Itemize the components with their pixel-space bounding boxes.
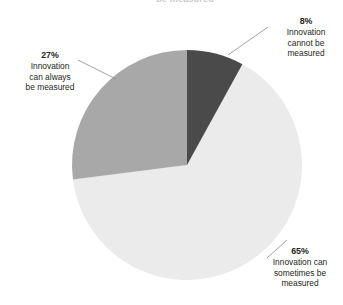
pie-label-sometimes: 65% Innovation can sometimes be measured [258, 246, 342, 289]
pie-label-cannot-percent: 8% [270, 16, 342, 27]
pie-label-cannot-line1: Innovation [270, 27, 342, 38]
pie-label-cannot: 8% Innovation cannot be measured [270, 16, 342, 59]
pie-label-always-line3: be measured [2, 82, 98, 93]
pie-label-always-percent: 27% [2, 50, 98, 61]
pie-label-cannot-line3: measured [270, 48, 342, 59]
pie-label-sometimes-line1: Innovation can [258, 257, 342, 268]
pie-chart-figure: be measured 8% Innovation cannot be meas… [0, 0, 343, 305]
pie-label-always: 27% Innovation can always be measured [2, 50, 98, 93]
pie-label-always-line1: Innovation [2, 61, 98, 72]
pie-label-cannot-line2: cannot be [270, 38, 342, 49]
pie-label-always-line2: can always [2, 72, 98, 83]
pie-label-sometimes-percent: 65% [258, 246, 342, 257]
leader-line-cannot [228, 27, 268, 55]
pie-label-sometimes-line3: measured [258, 278, 342, 289]
pie-label-sometimes-line2: sometimes be [258, 268, 342, 279]
